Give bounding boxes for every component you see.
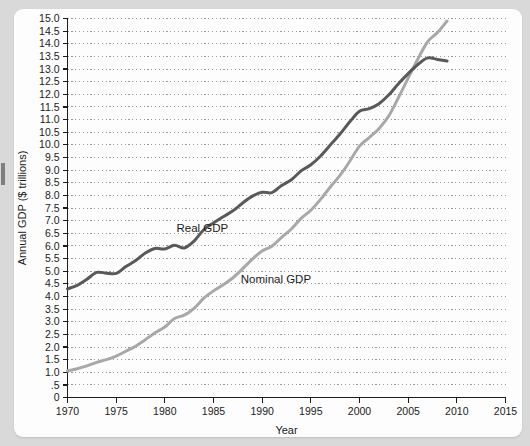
y-axis-tick-label: 5.0 [45,265,60,277]
series-annotation-nominal-gdp: Nominal GDP [241,273,312,285]
x-axis-tick-label: 2005 [397,405,421,417]
y-axis-tick-label: 14.0 [39,37,60,49]
y-axis-tick-label: 6.5 [45,227,60,239]
y-axis-tick-label: 8.5 [45,176,60,188]
y-axis-tick-label: 2.5 [45,328,60,340]
y-axis-tick-label: 9.0 [45,164,60,176]
y-axis-tick-label: 10.5 [39,126,60,138]
x-axis-tick-label: 1980 [153,405,177,417]
y-axis-tick-label: 10.0 [39,138,60,150]
y-axis-tick-label: 13.5 [39,50,60,62]
y-axis-title: Annual GDP ($ trillions) [16,151,28,266]
y-axis-tick-label: 5.5 [45,252,60,264]
x-axis-tick-label: 1970 [56,405,80,417]
y-axis-tick-label: 4.0 [45,290,60,302]
y-axis-tick-label: 1.0 [45,366,60,378]
y-axis-tick-label: 1.5 [45,353,60,365]
y-axis-tick-label: 0 [54,391,60,403]
y-axis-tick-label: 12.5 [39,75,60,87]
y-axis-tick-label: 7.5 [45,202,60,214]
y-axis-tick-label: 8.0 [45,189,60,201]
x-axis-tick-label: 1985 [202,405,226,417]
y-axis-tick-label: 11.0 [40,113,60,125]
y-axis-tick-label: 14.5 [39,25,60,37]
x-axis-tick-label: 2015 [494,405,518,417]
y-axis-tick-label: .5 [51,379,60,391]
y-axis-tick-label: 6.0 [45,240,60,252]
x-axis-tick-label: 2000 [348,405,372,417]
x-axis-tick-label: 1990 [251,405,275,417]
y-axis-tick-label: 2.0 [45,341,60,353]
series-annotation-real-gdp: Real GDP [177,222,229,234]
figure-root: 0.51.01.52.02.53.03.54.04.55.05.56.06.57… [0,0,530,446]
y-axis-tick-label: 9.5 [45,151,60,163]
y-axis-tick-label: 4.5 [45,277,60,289]
x-axis-title: Year [275,424,298,436]
y-axis-tick-label: 11.5 [40,101,60,113]
y-axis-tick-label: 3.0 [45,315,60,327]
x-axis-tick-label: 2010 [445,405,469,417]
y-axis-tick-label: 3.5 [45,303,60,315]
gdp-line-chart: 0.51.01.52.02.53.03.54.04.55.05.56.06.57… [0,0,530,446]
y-axis-tick-label: 13.0 [39,63,60,75]
y-axis-tick-label: 15.0 [39,12,60,24]
y-axis-tick-label: 7.0 [45,214,60,226]
series-line-nominal-gdp [68,21,448,371]
x-axis-tick-label: 1995 [299,405,323,417]
x-axis-tick-label: 1975 [105,405,129,417]
y-axis-tick-label: 12.0 [39,88,60,100]
